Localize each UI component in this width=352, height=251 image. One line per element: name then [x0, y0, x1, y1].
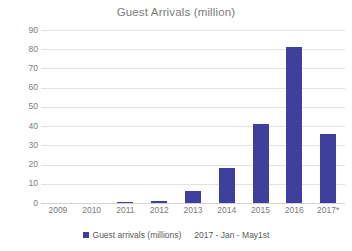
bar-series — [41, 30, 345, 203]
y-axis-tick-label: 10 — [4, 179, 38, 188]
gridline — [41, 203, 345, 204]
bar-slot — [75, 30, 109, 203]
x-axis-tick-label: 2017* — [311, 206, 345, 215]
y-axis-tick-label: 0 — [4, 199, 38, 208]
x-axis-tick-label: 2012 — [142, 206, 176, 215]
chart-title: Guest Arrivals (million) — [0, 6, 352, 18]
plot-area — [41, 30, 345, 203]
chart-legend: Guest arrivals (millions) 2017 - Jan - M… — [0, 230, 352, 240]
y-axis-tick-label: 80 — [4, 45, 38, 54]
legend-series-label: Guest arrivals (millions) — [93, 230, 182, 240]
y-axis-tick-label: 90 — [4, 26, 38, 35]
y-axis-tick-label: 70 — [4, 64, 38, 73]
bar-slot — [142, 30, 176, 203]
bar-slot — [210, 30, 244, 203]
x-axis-tick-label: 2013 — [176, 206, 210, 215]
bar[interactable] — [219, 168, 235, 203]
bar[interactable] — [286, 47, 302, 203]
y-axis-tick-label: 20 — [4, 160, 38, 169]
bar[interactable] — [117, 202, 133, 203]
x-axis-tick-label: 2009 — [41, 206, 75, 215]
bar-slot — [244, 30, 278, 203]
y-axis-tick-label: 30 — [4, 141, 38, 150]
x-axis-tick-label: 2015 — [244, 206, 278, 215]
chart-container: Guest Arrivals (million) 010203040506070… — [0, 0, 352, 251]
y-axis: 0102030405060708090 — [0, 30, 38, 203]
bar-slot — [109, 30, 143, 203]
bar-slot — [277, 30, 311, 203]
bar-slot — [41, 30, 75, 203]
bar-slot — [311, 30, 345, 203]
legend-note: 2017 - Jan - May1st — [194, 230, 269, 240]
x-axis-tick-label: 2014 — [210, 206, 244, 215]
bar[interactable] — [185, 191, 201, 203]
x-axis-tick-label: 2011 — [109, 206, 143, 215]
bar[interactable] — [253, 124, 269, 203]
bar[interactable] — [320, 134, 336, 203]
legend-swatch-icon — [83, 232, 89, 238]
bar-slot — [176, 30, 210, 203]
bar[interactable] — [151, 201, 167, 203]
y-axis-tick-label: 40 — [4, 122, 38, 131]
y-axis-tick-label: 50 — [4, 102, 38, 111]
x-axis: 200920102011201220132014201520162017* — [41, 206, 345, 220]
x-axis-tick-label: 2016 — [277, 206, 311, 215]
x-axis-tick-label: 2010 — [75, 206, 109, 215]
y-axis-tick-label: 60 — [4, 83, 38, 92]
